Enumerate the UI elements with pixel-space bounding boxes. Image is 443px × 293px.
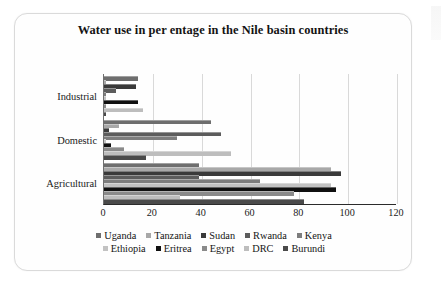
gridline: [397, 74, 398, 204]
legend-label: Burundi: [291, 243, 325, 254]
chart-title: Water use in per entage in the Nile basi…: [41, 23, 385, 39]
legend-label: Rwanda: [253, 230, 287, 241]
legend-label: Egypt: [210, 243, 235, 254]
legend-item-eritrea[interactable]: Eritrea: [156, 243, 192, 254]
bar-group: [104, 118, 396, 162]
legend-item-ethiopia[interactable]: Ethiopia: [103, 243, 146, 254]
chart-card: Water use in per entage in the Nile basi…: [14, 13, 412, 271]
legend-swatch-icon: [283, 246, 288, 251]
legend-item-tanzania[interactable]: Tanzania: [146, 230, 191, 241]
legend-swatch-icon: [245, 233, 250, 238]
x-tick-40: 40: [196, 207, 206, 218]
legend-label: Ethiopia: [111, 243, 146, 254]
bar-group: [104, 74, 396, 118]
legend-swatch-icon: [103, 246, 108, 251]
bar-group: [104, 161, 396, 205]
bar-burundi-industrial: [104, 112, 106, 117]
legend-swatch-icon: [96, 233, 101, 238]
legend-label: Kenya: [305, 230, 332, 241]
legend-item-drc[interactable]: DRC: [244, 243, 273, 254]
x-axis-ticks: 020406080100120: [103, 207, 396, 225]
bar-burundi-domestic: [104, 155, 146, 160]
y-axis-label-agricultural: Agricultural: [46, 178, 97, 189]
bar-drc-industrial: [104, 108, 143, 113]
legend-item-kenya[interactable]: Kenya: [297, 230, 332, 241]
x-tick-20: 20: [147, 207, 157, 218]
legend-row-1: UgandaTanzaniaSudanRwandaKenya: [15, 230, 413, 241]
y-axis-label-domestic: Domestic: [57, 134, 97, 145]
bar-uganda-domestic: [104, 120, 211, 125]
legend-swatch-icon: [244, 246, 249, 251]
legend-label: DRC: [252, 243, 273, 254]
legend-swatch-icon: [202, 246, 207, 251]
legend-row-2: EthiopiaEritreaEgyptDRCBurundi: [15, 243, 413, 254]
bar-kenya-domestic: [104, 136, 177, 141]
legend-label: Uganda: [104, 230, 136, 241]
x-tick-0: 0: [100, 207, 105, 218]
x-tick-80: 80: [293, 207, 303, 218]
legend-swatch-icon: [156, 246, 161, 251]
bar-uganda-industrial: [104, 76, 138, 81]
x-tick-100: 100: [340, 207, 355, 218]
legend-item-burundi[interactable]: Burundi: [283, 243, 325, 254]
y-axis-label-industrial: Industrial: [57, 90, 97, 101]
scan-artifact: [431, 6, 441, 40]
bar-eritrea-industrial: [104, 100, 138, 105]
legend-swatch-icon: [201, 233, 206, 238]
legend-item-rwanda[interactable]: Rwanda: [245, 230, 287, 241]
legend-item-sudan[interactable]: Sudan: [201, 230, 235, 241]
bars-canvas: [103, 74, 396, 205]
x-tick-60: 60: [244, 207, 254, 218]
legend-item-egypt[interactable]: Egypt: [202, 243, 235, 254]
legend-label: Tanzania: [154, 230, 191, 241]
legend-label: Eritrea: [164, 243, 192, 254]
x-tick-120: 120: [388, 207, 403, 218]
legend-swatch-icon: [297, 233, 302, 238]
bar-burundi-agricultural: [104, 199, 304, 204]
y-axis-labels: IndustrialDomesticAgricultural: [15, 74, 103, 205]
legend-swatch-icon: [146, 233, 151, 238]
legend-item-uganda[interactable]: Uganda: [96, 230, 136, 241]
chart-legend: UgandaTanzaniaSudanRwandaKenyaEthiopiaEr…: [15, 228, 413, 254]
legend-label: Sudan: [209, 230, 235, 241]
plot-area: IndustrialDomesticAgricultural 020406080…: [15, 74, 413, 224]
